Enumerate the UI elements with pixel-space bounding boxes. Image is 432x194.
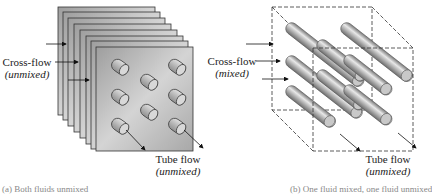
dashed-enclosure [272,7,413,151]
panel-a-caption: (a) Both fluids unmixed [2,184,88,194]
tube-flow-arrows-b [340,133,416,151]
panel-a-cross-flow-label: Cross-flow (unmixed) [2,56,52,80]
panel-a-tube-flow-label: Tube flow (unmixed) [150,153,206,177]
panel-b-caption: (b) One fluid mixed, one fluid unmixed [290,184,432,194]
panel-b-cross-flow-label: Cross-flow (mixed) [207,55,257,79]
panel-b-tube-flow-label: Tube flow (unmixed) [360,153,416,177]
tubes [283,20,415,129]
